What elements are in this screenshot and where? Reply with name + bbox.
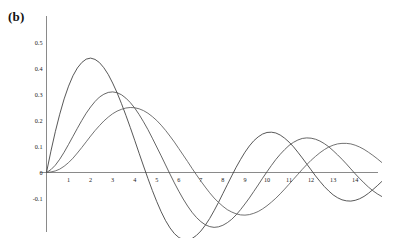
x-tick-label: 2 [89, 176, 92, 183]
y-tick-label: 0.1 [35, 143, 43, 150]
y-tick-label: 0 [39, 169, 42, 176]
x-tick-label: 14 [352, 176, 358, 183]
x-tick-label: 4 [133, 176, 136, 183]
x-tick-label: 1 [67, 176, 70, 183]
series-line-1 [47, 58, 382, 238]
x-tick-labels: 1234567891011121314 [67, 176, 358, 183]
figure-panel-b: (b) 1234567891011121314 -0.100.10.20.30.… [0, 0, 394, 238]
axes-group [40, 16, 378, 232]
series-line-3 [47, 108, 382, 216]
y-tick-label: 0.3 [35, 91, 43, 98]
x-tick-label: 9 [243, 176, 246, 183]
x-tick-label: 8 [221, 176, 224, 183]
x-tick-label: 7 [199, 176, 202, 183]
x-tick-label: 12 [308, 176, 314, 183]
x-tick-label: 13 [330, 176, 336, 183]
x-tick-label: 3 [111, 176, 114, 183]
y-tick-label: 0.5 [35, 39, 43, 46]
series-group [47, 58, 382, 238]
x-tick-label: 6 [177, 176, 180, 183]
x-tick-label: 5 [155, 176, 158, 183]
y-tick-labels: -0.100.10.20.30.40.5 [33, 39, 43, 202]
series-line-2 [47, 92, 382, 227]
y-tick-label: 0.4 [35, 65, 43, 72]
y-tick-label: 0.2 [35, 117, 43, 124]
y-tick-label: -0.1 [33, 195, 43, 202]
x-tick-label: 10 [264, 176, 270, 183]
x-tick-label: 11 [286, 176, 292, 183]
damped-oscillation-chart: 1234567891011121314 -0.100.10.20.30.40.5 [0, 0, 394, 238]
